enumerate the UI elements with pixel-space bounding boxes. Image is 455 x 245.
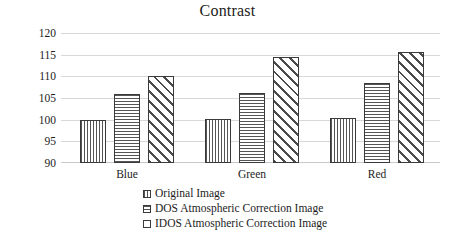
category-label-blue: Blue bbox=[67, 167, 187, 181]
y-tick-115: 115 bbox=[12, 50, 56, 62]
legend-swatch-horizontal-lines-icon bbox=[143, 205, 151, 213]
bar-green-series-1 bbox=[205, 119, 231, 163]
y-tick-95: 95 bbox=[12, 136, 56, 148]
bar-green-series-2 bbox=[239, 93, 265, 163]
bar-red-series-1 bbox=[330, 118, 356, 163]
bar-green-series-3 bbox=[273, 57, 299, 163]
legend-item-original-image: Original Image bbox=[143, 186, 455, 201]
y-tick-105: 105 bbox=[12, 93, 56, 105]
chart-title: Contrast bbox=[0, 2, 455, 20]
y-axis-tick-labels: 120 115 110 105 100 95 90 bbox=[8, 33, 56, 163]
y-tick-100: 100 bbox=[12, 115, 56, 127]
x-axis-category-labels: Blue Green Red bbox=[61, 167, 440, 183]
bar-blue-series-1 bbox=[80, 120, 106, 163]
category-label-red: Red bbox=[317, 167, 437, 181]
bar-group-green bbox=[192, 33, 312, 163]
legend-swatch-plain-icon bbox=[143, 220, 151, 228]
legend-label-original-image: Original Image bbox=[155, 187, 225, 200]
y-tick-90: 90 bbox=[12, 158, 56, 170]
legend-label-idos-correction: IDOS Atmospheric Correction Image bbox=[155, 217, 327, 230]
y-tick-120: 120 bbox=[12, 28, 56, 40]
y-tick-110: 110 bbox=[12, 71, 56, 83]
bar-red-series-3 bbox=[398, 52, 424, 163]
legend-item-idos-correction: IDOS Atmospheric Correction Image bbox=[143, 216, 455, 231]
legend-item-dos-correction: DOS Atmospheric Correction Image bbox=[143, 201, 455, 216]
bar-group-blue bbox=[67, 33, 187, 163]
bar-blue-series-2 bbox=[114, 94, 140, 163]
legend-label-dos-correction: DOS Atmospheric Correction Image bbox=[155, 202, 323, 215]
contrast-bar-chart: Contrast 120 115 110 105 100 95 90 Blue … bbox=[0, 0, 455, 245]
plot-area bbox=[61, 33, 440, 163]
chart-legend: Original Image DOS Atmospheric Correctio… bbox=[0, 186, 455, 231]
bar-blue-series-3 bbox=[148, 76, 174, 163]
category-label-green: Green bbox=[192, 167, 312, 181]
legend-swatch-vertical-lines-icon bbox=[143, 190, 151, 198]
bar-group-red bbox=[317, 33, 437, 163]
bar-red-series-2 bbox=[364, 83, 390, 163]
